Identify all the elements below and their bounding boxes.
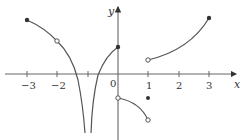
filled-point-0-upper xyxy=(116,45,120,49)
tick-label-neg2: −2 xyxy=(51,80,66,91)
open-point-1-lower xyxy=(146,118,150,122)
open-point-1-upper xyxy=(146,58,150,62)
tick-label-2: 2 xyxy=(176,80,182,91)
filled-point-neg3 xyxy=(25,18,29,22)
curve-right-branch xyxy=(148,18,209,60)
y-axis-label: y xyxy=(107,5,115,18)
filled-point-1-isolated xyxy=(146,96,150,100)
curve-middle-branch xyxy=(118,98,148,120)
tick-label-3: 3 xyxy=(206,80,212,91)
tick-label-origin: 0 xyxy=(110,78,116,89)
open-point-neg2 xyxy=(55,39,59,43)
tick-label-neg3: −3 xyxy=(21,80,36,91)
curve-left-branch xyxy=(27,20,85,133)
curve-asymptote-right-branch xyxy=(91,47,118,133)
x-axis-label: x xyxy=(234,78,241,91)
function-graph: −3 −2 0 1 2 3 x y xyxy=(0,0,247,140)
tick-label-1: 1 xyxy=(146,80,152,91)
open-point-0-lower xyxy=(116,96,120,100)
filled-point-3 xyxy=(207,16,211,20)
